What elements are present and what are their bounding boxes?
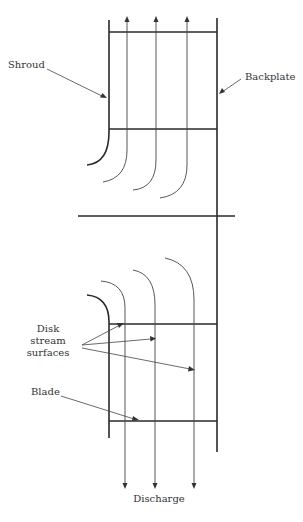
arrow-icon: [132, 416, 139, 421]
lower-streamline-1: [101, 281, 125, 484]
arrow-up-icon: [185, 16, 190, 22]
blade-label: Blade: [31, 386, 60, 397]
disk-label-line1: Disk: [37, 323, 60, 334]
upper-impeller: [87, 16, 217, 452]
upper-shroud-wall: [87, 20, 109, 165]
blade-leader: [61, 396, 134, 419]
arrow-down-icon: [123, 483, 128, 489]
shroud-label: Shroud: [8, 59, 46, 70]
lower-shroud-wall: [87, 295, 109, 438]
leaders: [47, 69, 241, 421]
disk-label-line3: surfaces: [27, 347, 70, 358]
lower-impeller: [87, 258, 217, 489]
discharge-label: Discharge: [133, 493, 185, 504]
shroud-leader: [47, 69, 104, 97]
lower-streamline-2: [133, 270, 155, 484]
arrow-up-icon: [125, 16, 130, 22]
arrow-icon: [219, 88, 225, 94]
upper-streamline-1: [103, 20, 127, 182]
arrow-up-icon: [154, 16, 159, 22]
backplate-leader: [222, 79, 241, 92]
backplate-label: Backplate: [245, 71, 296, 82]
upper-streamline-2: [133, 20, 156, 190]
arrow-icon: [117, 323, 124, 328]
impeller-diagram: Shroud Backplate Disk stream surfaces Bl…: [0, 0, 303, 522]
disk-label-line2: stream: [30, 335, 66, 346]
arrow-down-icon: [153, 483, 158, 489]
arrow-down-icon: [192, 483, 197, 489]
upper-streamline-3: [160, 20, 187, 198]
disk-leader-3: [82, 348, 190, 369]
